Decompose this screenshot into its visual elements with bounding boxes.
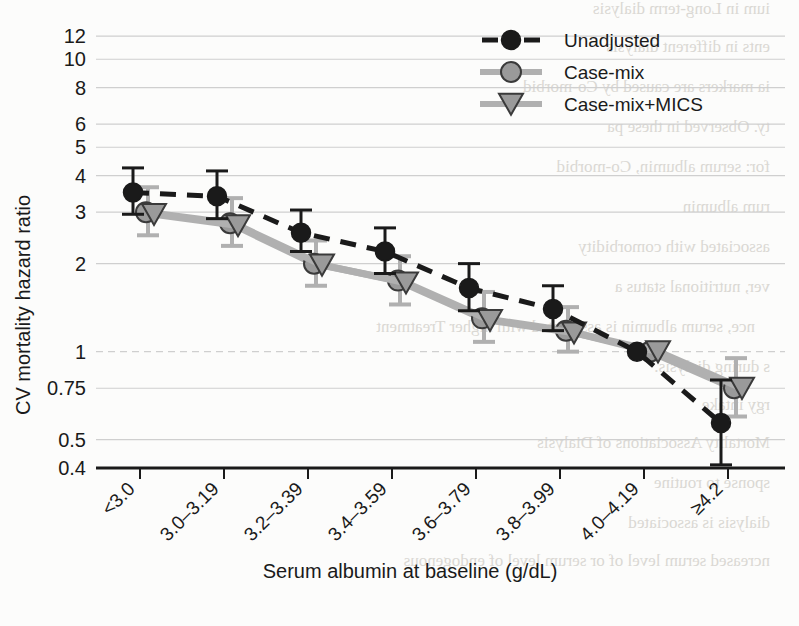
y-tick-label: 2 xyxy=(75,253,86,275)
marker-circle-filled xyxy=(712,414,731,433)
bleed-through-text: associated with comorbidity xyxy=(578,237,770,256)
chart-canvas: ium in Long-term dialysisents in differe… xyxy=(0,0,799,626)
marker-circle-filled xyxy=(544,299,563,318)
marker-circle-filled xyxy=(208,187,227,206)
y-tick-label: 0.4 xyxy=(58,457,86,479)
marker-circle-filled xyxy=(292,223,311,242)
marker-circle-filled xyxy=(628,342,647,361)
bleed-through-text: rum albumin xyxy=(682,197,770,216)
legend-label: Unadjusted xyxy=(564,30,660,51)
legend-item-unadjusted[interactable]: Unadjusted xyxy=(482,30,660,51)
x-axis-title: Serum albumin at baseline (g/dL) xyxy=(263,560,558,582)
marker-circle-filled xyxy=(502,31,521,50)
y-axis-title: CV mortality hazard ratio xyxy=(12,195,34,415)
y-tick-label: 5 xyxy=(75,136,86,158)
y-tick-label: 0.5 xyxy=(58,429,86,451)
legend-label: Case-mix xyxy=(564,62,645,83)
bleed-through-text: ver, nutritional status a xyxy=(614,277,770,296)
bleed-through-text: Mortality Associations of Dialysis xyxy=(537,433,770,452)
y-tick-label: 8 xyxy=(75,77,86,99)
bleed-through-text: for: serum albumin, Co-morbid xyxy=(556,157,770,176)
bleed-through-text: ium in Long-term dialysis xyxy=(593,0,770,18)
legend-label: Case-mix+MICS xyxy=(564,94,703,115)
y-tick-label: 10 xyxy=(64,48,86,70)
marker-circle-filled xyxy=(376,242,395,261)
y-tick-label: 12 xyxy=(64,25,86,47)
legend-item-case-mix-mics[interactable]: Case-mix+MICS xyxy=(480,94,703,115)
figure-root: ium in Long-term dialysisents in differe… xyxy=(0,0,799,626)
y-tick-label: 0.75 xyxy=(47,377,86,399)
bleed-through-text: ty. Observed in these pa xyxy=(607,117,770,136)
marker-circle-filled xyxy=(124,183,143,202)
y-tick-label: 3 xyxy=(75,201,86,223)
y-tick-label: 1 xyxy=(75,341,86,363)
y-tick-label: 6 xyxy=(75,113,86,135)
marker-circle-filled xyxy=(460,279,479,298)
y-tick-label: 4 xyxy=(75,165,86,187)
marker-circle-open xyxy=(501,62,521,82)
